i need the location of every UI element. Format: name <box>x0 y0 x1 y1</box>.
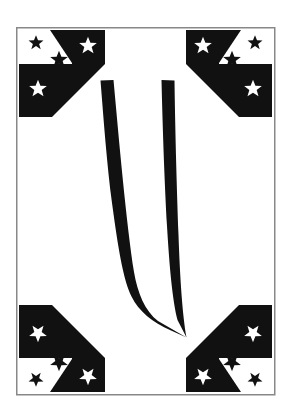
artwork-plate: Ornamental Calligraphy Plate U-shaped ta… <box>0 0 287 408</box>
artwork-canvas <box>0 0 287 408</box>
